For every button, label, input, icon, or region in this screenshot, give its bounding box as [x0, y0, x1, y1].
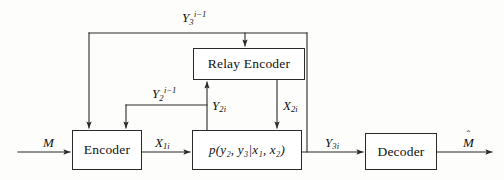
y3-delay-sup: i−1	[194, 9, 206, 19]
y2-delay-sup: i−1	[164, 85, 176, 95]
label-y3i: Y3i	[325, 136, 339, 151]
relay-encoder-label: Relay Encoder	[208, 56, 290, 72]
message-in-symbol: M	[43, 135, 54, 150]
block-encoder[interactable]: Encoder	[72, 130, 142, 170]
encoder-label: Encoder	[84, 142, 130, 158]
relay-channel-diagram: Encoder Relay Encoder p(y₂, y₃|x₁, x₂) D…	[0, 0, 504, 180]
y2i-sub: 2i	[219, 104, 226, 114]
message-out-symbol: ˆ M	[463, 136, 474, 149]
label-x2i: X2i	[283, 99, 298, 114]
block-decoder[interactable]: Decoder	[365, 133, 437, 170]
y3-delay-sub: 3	[189, 17, 193, 27]
y2-delay-sub: 2	[159, 93, 163, 103]
channel-label: p(y₂, y₃|x₁, x₂)	[209, 142, 285, 158]
x2i-sub: 2i	[291, 104, 298, 114]
label-message-out: ˆ M	[463, 136, 474, 149]
hat-accent: ˆ	[467, 129, 471, 140]
x1i-sub: 1i	[163, 141, 170, 151]
label-y3-delayed: Y3i−1	[182, 10, 206, 26]
block-relay-encoder[interactable]: Relay Encoder	[193, 48, 305, 80]
label-y2i: Y2i	[212, 99, 226, 114]
block-channel[interactable]: p(y₂, y₃|x₁, x₂)	[192, 130, 302, 170]
y3i-sub: 3i	[332, 141, 339, 151]
x2i-base: X	[283, 98, 291, 113]
decoder-label: Decoder	[377, 144, 424, 160]
x1i-base: X	[155, 135, 163, 150]
label-y2-delayed: Y2i−1	[152, 86, 176, 102]
label-x1i: X1i	[155, 136, 170, 151]
label-message-in: M	[43, 136, 54, 149]
